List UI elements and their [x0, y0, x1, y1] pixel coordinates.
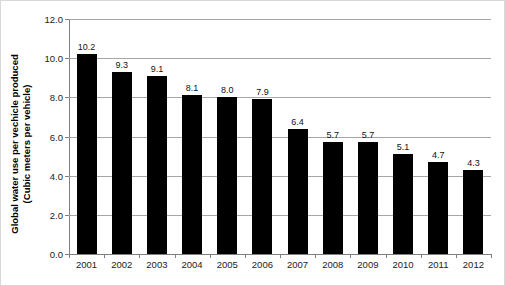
bar-value-label: 5.1 — [397, 142, 410, 152]
y-axis-tick-label: 10.0 — [31, 53, 63, 64]
bar — [428, 162, 448, 254]
x-axis-tick-mark — [210, 254, 211, 258]
x-axis-tick-mark — [421, 254, 422, 258]
gridline — [69, 58, 491, 59]
y-axis-tick-label: 4.0 — [31, 170, 63, 181]
x-axis-tick-mark — [280, 254, 281, 258]
bar — [217, 97, 237, 254]
bar-value-label: 5.7 — [326, 130, 339, 140]
x-axis-tick-mark — [386, 254, 387, 258]
bar — [77, 54, 97, 254]
x-axis-tick-mark — [245, 254, 246, 258]
x-axis-tick-label: 2007 — [287, 259, 308, 270]
x-axis-tick-mark — [69, 254, 70, 258]
x-axis-tick-label: 2010 — [393, 259, 414, 270]
x-axis-tick-mark — [175, 254, 176, 258]
bar — [323, 142, 343, 254]
x-axis-tick-mark — [350, 254, 351, 258]
bar — [288, 129, 308, 254]
x-axis-tick-label: 2011 — [428, 259, 448, 270]
x-axis-tick-mark — [491, 254, 492, 258]
x-axis-tick-mark — [456, 254, 457, 258]
bar — [147, 76, 167, 254]
x-axis-tick-label: 2012 — [463, 259, 484, 270]
bar-value-label: 8.0 — [221, 85, 234, 95]
x-axis-tick-label: 2002 — [111, 259, 132, 270]
bar-value-label: 4.7 — [432, 150, 445, 160]
bar-value-label: 8.1 — [186, 83, 199, 93]
x-axis-tick-mark — [139, 254, 140, 258]
gridline — [69, 19, 491, 20]
y-axis-title: Global water use per vechicle produced (… — [3, 1, 39, 286]
y-axis-tick-label: 12.0 — [31, 14, 63, 25]
bar — [463, 170, 483, 254]
y-axis-tick-label: 6.0 — [31, 131, 63, 142]
bar — [112, 72, 132, 254]
x-axis-tick-label: 2008 — [322, 259, 343, 270]
gridline — [69, 97, 491, 98]
y-axis-title-line-2: (Cubic meters per vehicle) — [21, 54, 33, 234]
x-axis-tick-label: 2003 — [146, 259, 167, 270]
x-axis-tick-label: 2004 — [182, 259, 203, 270]
bar-value-label: 9.1 — [151, 64, 164, 74]
x-axis-tick-label: 2001 — [76, 259, 97, 270]
x-axis-tick-label: 2009 — [357, 259, 378, 270]
bar-value-label: 9.3 — [115, 60, 128, 70]
y-axis-tick-label: 2.0 — [31, 209, 63, 220]
y-axis-tick-label: 0.0 — [31, 249, 63, 260]
y-axis-tick-label: 8.0 — [31, 92, 63, 103]
bar-chart: Global water use per vechicle produced (… — [0, 0, 505, 286]
bar-value-label: 6.4 — [291, 117, 304, 127]
bar — [182, 95, 202, 254]
plot-area — [69, 19, 491, 254]
bar-value-label: 5.7 — [362, 130, 375, 140]
x-axis-tick-mark — [104, 254, 105, 258]
y-axis-title-line-1: Global water use per vechicle produced — [9, 54, 21, 234]
bar-value-label: 4.3 — [467, 158, 480, 168]
gridline — [69, 137, 491, 138]
bar — [358, 142, 378, 254]
bar — [393, 154, 413, 254]
bar-value-label: 10.2 — [78, 42, 96, 52]
x-axis-tick-label: 2006 — [252, 259, 273, 270]
bar — [252, 99, 272, 254]
bar-value-label: 7.9 — [256, 87, 269, 97]
x-axis-tick-label: 2005 — [217, 259, 238, 270]
x-axis-tick-mark — [315, 254, 316, 258]
